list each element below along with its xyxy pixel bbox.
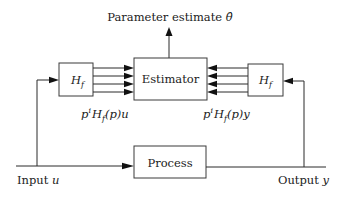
filter-block-input: Hf bbox=[59, 63, 93, 96]
output-tap-line bbox=[283, 78, 304, 167]
parameter-estimate-label: Parameter estimate θ̂ bbox=[107, 10, 233, 24]
filtered-output-signal-label: piHf(p)y bbox=[203, 106, 250, 123]
filtered-input-arrows bbox=[93, 65, 134, 95]
block-diagram: Parameter estimate θ̂ Hf Estimator Hf bbox=[0, 0, 346, 199]
estimator-block: Estimator bbox=[134, 58, 207, 100]
process-block: Process bbox=[134, 146, 206, 178]
input-signal-line bbox=[16, 163, 134, 169]
filtered-output-arrows bbox=[207, 65, 248, 95]
input-tap-line bbox=[37, 77, 59, 166]
output-label: Output y bbox=[278, 173, 330, 187]
process-label: Process bbox=[147, 156, 192, 170]
estimator-label: Estimator bbox=[142, 72, 200, 86]
filter-block-output: Hf bbox=[248, 64, 283, 96]
input-label: Input u bbox=[17, 173, 59, 187]
filtered-input-signal-label: piHf(p)u bbox=[81, 106, 129, 123]
estimate-output-arrow bbox=[166, 27, 173, 58]
